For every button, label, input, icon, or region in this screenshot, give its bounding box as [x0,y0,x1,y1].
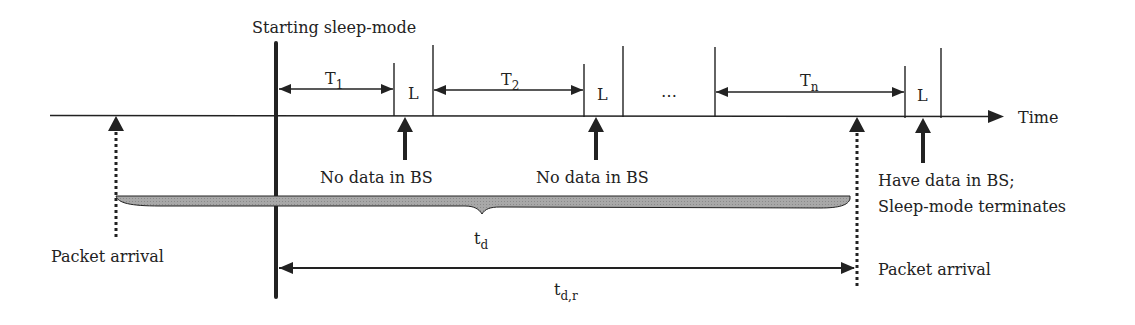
have-data-label: Have data in BS; [878,171,1015,190]
tdr-label: td,r [554,280,578,303]
up-arrow-icon [588,117,604,160]
td-brace [116,196,850,214]
interval-tn-label: Tn [800,71,819,94]
interval-t2: T2 [434,70,583,95]
td-label: td [474,229,488,252]
interval-t1: T1 [279,69,393,94]
listen-window-1: L [408,84,419,103]
time-axis [50,110,1004,123]
time-axis-label: Time [1018,108,1058,127]
no-data-label-2: No data in BS [536,168,649,187]
listen-window-2: L [597,85,608,104]
sleep-terminates-label: Sleep-mode terminates [878,197,1066,216]
ellipsis: … [661,82,677,101]
up-arrow-icon [397,117,413,160]
packet-arrival-right-label: Packet arrival [878,260,991,279]
interval-tn: Tn [716,71,904,97]
sleep-mode-timeline-diagram: Time Starting sleep-mode T1 T2 Tn L L L … [0,0,1135,325]
sleep-start-label: Starting sleep-mode [252,18,416,37]
up-arrow-icon [915,118,931,163]
axis-arrowhead-icon [988,110,1004,123]
dotted-up-arrow-icon [849,117,865,288]
no-data-label-1: No data in BS [320,168,433,187]
packet-arrival-left-label: Packet arrival [51,247,164,266]
tdr-arrow [279,262,855,274]
dotted-up-arrow-icon [108,116,124,240]
listen-window-n: L [917,86,928,105]
